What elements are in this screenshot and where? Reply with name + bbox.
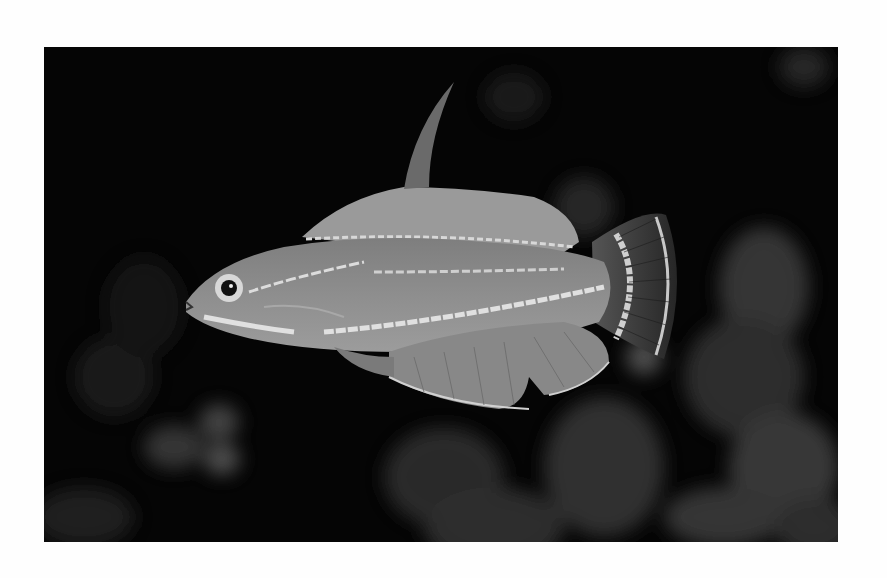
fish-photograph: Grayscale photograph of a wrasse with el… <box>44 47 838 542</box>
photo-canvas <box>44 47 838 542</box>
dorsal-spine <box>404 82 454 189</box>
fish <box>186 82 677 409</box>
